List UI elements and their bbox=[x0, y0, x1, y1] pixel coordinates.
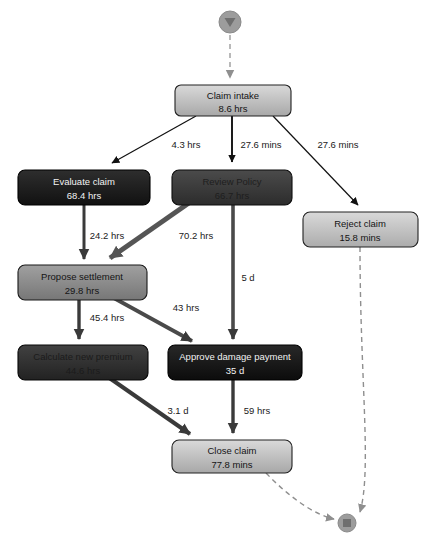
node-metric: 68.4 hrs bbox=[67, 190, 102, 201]
edge-label-intake-to-reject: 27.6 mins bbox=[317, 139, 358, 150]
node-reject-claim[interactable]: Reject claim 15.8 mins bbox=[303, 212, 418, 247]
edge-propose-to-calculate: 45.4 hrs bbox=[79, 300, 124, 339]
edge-label-calculate-to-close: 3.1 d bbox=[167, 405, 188, 416]
edge-label-intake-to-evaluate: 4.3 hrs bbox=[171, 139, 200, 150]
end-event[interactable] bbox=[338, 514, 356, 532]
process-flow-diagram: 4.3 hrs 27.6 mins 27.6 mins 24.2 hrs 70.… bbox=[0, 0, 435, 545]
node-label: Evaluate claim bbox=[53, 176, 115, 187]
edge-review-to-propose: 70.2 hrs bbox=[110, 198, 213, 258]
node-metric: 66.7 hrs bbox=[215, 190, 250, 201]
node-evaluate-claim[interactable]: Evaluate claim 68.4 hrs bbox=[18, 170, 150, 205]
edge-label-approve-to-close: 59 hrs bbox=[244, 405, 271, 416]
node-label: Propose settlement bbox=[41, 271, 123, 282]
node-metric: 29.8 hrs bbox=[65, 285, 100, 296]
node-metric: 77.8 mins bbox=[211, 459, 252, 470]
edge-close-to-end bbox=[266, 473, 334, 519]
edge-path bbox=[266, 473, 334, 519]
edge-intake-to-evaluate: 4.3 hrs bbox=[112, 116, 201, 163]
edge-calculate-to-close: 3.1 d bbox=[108, 377, 190, 434]
edge-review-to-approve: 5 d bbox=[233, 205, 255, 339]
edge-propose-to-approve: 43 hrs bbox=[112, 297, 199, 341]
node-metric: 15.8 mins bbox=[339, 232, 380, 243]
node-label: Review Policy bbox=[202, 176, 261, 187]
edge-label-evaluate-to-propose: 24.2 hrs bbox=[90, 230, 125, 241]
node-label: Calculate new premium bbox=[33, 351, 132, 362]
stop-square-icon bbox=[343, 519, 351, 527]
edge-label-propose-to-calculate: 45.4 hrs bbox=[90, 312, 125, 323]
node-approve-damage-payment[interactable]: Approve damage payment 35 d bbox=[168, 345, 302, 380]
node-review-policy[interactable]: Review Policy 66.7 hrs bbox=[172, 170, 292, 205]
edge-label-intake-to-review: 27.6 mins bbox=[240, 139, 281, 150]
node-close-claim[interactable]: Close claim 77.8 mins bbox=[172, 440, 292, 473]
edge-path bbox=[110, 198, 196, 258]
node-label: Claim intake bbox=[207, 90, 259, 101]
start-event[interactable] bbox=[219, 11, 241, 33]
edge-path bbox=[360, 247, 365, 512]
node-label: Reject claim bbox=[334, 218, 386, 229]
node-claim-intake[interactable]: Claim intake 8.6 hrs bbox=[175, 85, 291, 116]
node-propose-settlement[interactable]: Propose settlement 29.8 hrs bbox=[18, 265, 147, 300]
node-metric: 44.6 hrs bbox=[66, 365, 101, 376]
node-label: Approve damage payment bbox=[179, 351, 291, 362]
edge-label-propose-to-approve: 43 hrs bbox=[173, 302, 200, 313]
edge-approve-to-close: 59 hrs bbox=[233, 380, 270, 433]
edge-label-review-to-approve: 5 d bbox=[241, 272, 254, 283]
node-metric: 8.6 hrs bbox=[218, 103, 247, 114]
edge-reject-to-end bbox=[360, 247, 365, 512]
node-label: Close claim bbox=[207, 445, 256, 456]
edge-intake-to-review: 27.6 mins bbox=[232, 116, 282, 162]
node-calculate-new-premium[interactable]: Calculate new premium 44.6 hrs bbox=[18, 345, 148, 380]
edge-label-review-to-propose: 70.2 hrs bbox=[179, 230, 214, 241]
node-metric: 35 d bbox=[226, 365, 245, 376]
